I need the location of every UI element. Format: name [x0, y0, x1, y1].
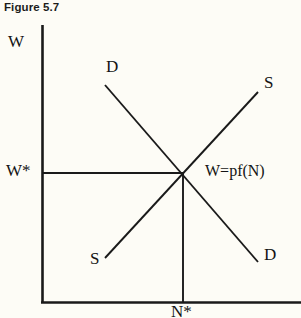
y-axis-label: W — [8, 33, 24, 50]
demand-curve-label-upper: D — [106, 58, 118, 75]
equilibrium-wage-label: W* — [6, 162, 31, 179]
x-axis-label: N* — [171, 303, 192, 318]
supply-curve-label-lower: S — [90, 250, 99, 267]
plot-area — [0, 0, 301, 318]
figure-container: Figure 5.7 W W* N* D D S S W=pf(N) — [0, 0, 301, 318]
demand-curve-label-lower: D — [264, 246, 276, 263]
supply-curve-label-upper: S — [264, 74, 273, 91]
equation-annotation: W=pf(N) — [205, 163, 265, 179]
